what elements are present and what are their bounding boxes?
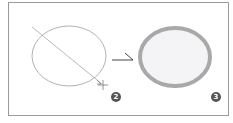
step-badge-2: 2 (111, 92, 121, 102)
finished-ellipse (140, 28, 210, 86)
drag-guide-line (32, 27, 102, 84)
diagram-canvas (0, 0, 233, 123)
draft-ellipse (32, 26, 106, 86)
arrow-right-icon (112, 53, 133, 60)
crosshair-cursor-icon (97, 80, 108, 90)
step-badge-3: 3 (211, 92, 221, 102)
